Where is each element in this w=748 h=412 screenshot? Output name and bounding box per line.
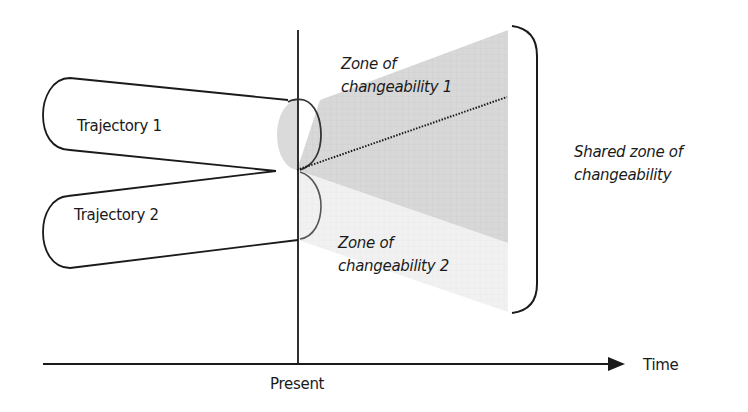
zone-2-label-line2: changeability 2 xyxy=(338,257,449,275)
ellipse-1-shade xyxy=(277,100,298,170)
present-label: Present xyxy=(270,375,324,393)
diagram-canvas: Trajectory 1 Trajectory 2 Zone of change… xyxy=(0,0,748,412)
zone-1-label-line2: changeability 1 xyxy=(341,78,452,96)
zone-1-label-line1: Zone of xyxy=(341,55,396,73)
shared-zone-label-line1: Shared zone of xyxy=(574,143,683,161)
shared-zone-brace xyxy=(512,26,537,313)
trajectory-2-label: Trajectory 2 xyxy=(74,206,159,224)
trajectory-1-label: Trajectory 1 xyxy=(77,117,162,135)
zone-2-label-line1: Zone of xyxy=(338,234,393,252)
time-label: Time xyxy=(643,356,679,374)
time-axis-arrowhead-icon xyxy=(608,357,625,371)
shared-zone-label-line2: changeability xyxy=(574,166,671,184)
